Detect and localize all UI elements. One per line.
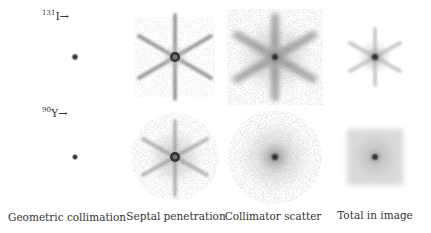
panel-i131-geometric xyxy=(25,7,125,107)
panel-y90-total xyxy=(325,107,425,207)
column-label-geometric-collimation: Geometric collimation xyxy=(8,211,118,223)
point-spread-image xyxy=(25,7,125,107)
panel-y90-septal xyxy=(125,107,225,207)
panel-i131-total xyxy=(325,7,425,107)
point-spread-image xyxy=(25,107,125,207)
point-spread-image xyxy=(125,107,225,207)
column-label-collimator-scatter: Collimator scatter xyxy=(218,210,328,222)
panel-y90-scatter xyxy=(225,107,325,207)
point-spread-image xyxy=(225,7,325,107)
point-spread-image xyxy=(325,7,425,107)
column-label-septal-penetration: Septal penetration xyxy=(121,210,231,222)
column-label-total-in-image: Total in image xyxy=(320,209,430,221)
panel-i131-scatter xyxy=(225,7,325,107)
point-spread-image xyxy=(225,107,325,207)
panel-i131-septal xyxy=(125,7,225,107)
point-spread-image xyxy=(325,107,425,207)
point-spread-image xyxy=(125,7,225,107)
panel-y90-geometric xyxy=(25,107,125,207)
